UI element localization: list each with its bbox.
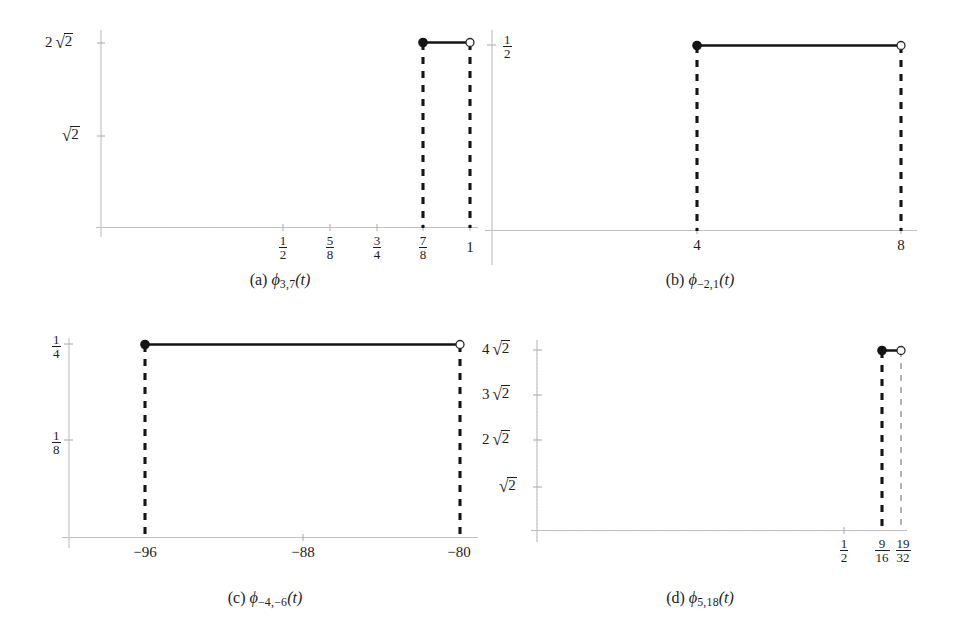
closed-endpoint-dot [693, 41, 701, 49]
x-label-19-32: 19 32 [903, 538, 918, 566]
x-label-5-8: 5 8 [330, 235, 339, 263]
y-label-2sqrt2: 2√2 [482, 430, 510, 447]
caption-d-subscript: 5,18 [697, 595, 719, 609]
caption-c-prefix: (c) [228, 589, 246, 606]
y-label-sqrt2: √2 [62, 126, 80, 143]
y-label-4sqrt2: 4√2 [482, 340, 510, 357]
caption-d: (d) ϕ5,18(t) [700, 590, 768, 609]
x-label-1-2: 1 2 [283, 235, 292, 263]
y-label-sqrt2-radicand: 2 [70, 126, 80, 142]
y-label-4sqrt2-coefficient: 4 [482, 341, 490, 357]
y-label-1-4: 1 4 [52, 334, 61, 362]
caption-b-argument: (t) [719, 271, 734, 288]
panel-b: 1 2 4 8 (b) ϕ−2,1(t) [477, 0, 955, 310]
panel-a: 2√2 √2 1 2 5 8 3 4 [0, 0, 478, 310]
y-label-1-8: 1 8 [52, 430, 61, 458]
caption-c-subscript: −4,−6 [258, 595, 287, 609]
y-label-sqrt2: √2 [499, 477, 517, 494]
caption-a: (a) ϕ3,7(t) [280, 272, 341, 291]
caption-d-argument: (t) [719, 589, 734, 606]
open-endpoint-dot [897, 42, 905, 50]
x-label-8: 8 [901, 238, 909, 253]
x-label-minus88: −88 [303, 545, 326, 560]
panel-b-plot [477, 0, 955, 310]
y-label-2sqrt2-coefficient: 2 [45, 34, 53, 50]
wavelet-basis-figure: 2√2 √2 1 2 5 8 3 4 [0, 0, 955, 640]
y-label-2sqrt2: 2√2 [45, 33, 73, 50]
x-label-7-8: 7 8 [423, 235, 432, 263]
caption-a-symbol: ϕ [271, 270, 279, 289]
y-label-3sqrt2: 3√2 [482, 385, 510, 402]
x-label-minus96: −96 [145, 545, 168, 560]
caption-b-subscript: −2,1 [697, 277, 719, 291]
caption-d-prefix: (d) [666, 589, 685, 606]
y-label-2sqrt2-radicand: 2 [64, 33, 74, 49]
open-endpoint-dot [466, 39, 474, 47]
open-endpoint-dot [897, 347, 905, 355]
y-label-3sqrt2-coefficient: 3 [482, 386, 490, 402]
caption-b: (b) ϕ−2,1(t) [700, 272, 768, 291]
x-label-1-2: 1 2 [844, 538, 853, 566]
y-label-2sqrt2-radicand: 2 [501, 430, 511, 446]
y-label-3sqrt2-radicand: 2 [501, 385, 511, 401]
closed-endpoint-dot [141, 340, 149, 348]
caption-b-symbol: ϕ [688, 270, 696, 289]
caption-a-argument: (t) [295, 271, 310, 288]
y-label-1-2: 1 2 [503, 34, 512, 62]
caption-c: (c) ϕ−4,−6(t) [265, 590, 339, 609]
x-label-4: 4 [697, 238, 705, 253]
closed-endpoint-dot [878, 346, 886, 354]
panel-d: 4√2 3√2 2√2 √2 1 2 9 16 [477, 310, 955, 640]
caption-a-subscript: 3,7 [280, 277, 295, 291]
caption-a-prefix: (a) [250, 271, 268, 288]
open-endpoint-dot [456, 341, 464, 349]
x-label-3-4: 3 4 [377, 235, 386, 263]
caption-c-symbol: ϕ [250, 588, 258, 607]
y-label-sqrt2-radicand: 2 [507, 477, 517, 493]
panel-c: 1 4 1 8 −96 −88 −80 (c) ϕ−4,−6(t) [0, 310, 478, 640]
y-label-2sqrt2-coefficient: 2 [482, 431, 490, 447]
y-label-4sqrt2-radicand: 2 [501, 340, 511, 356]
caption-c-argument: (t) [287, 589, 302, 606]
caption-b-prefix: (b) [666, 271, 685, 288]
caption-d-symbol: ϕ [689, 588, 697, 607]
closed-endpoint-dot [419, 38, 427, 46]
